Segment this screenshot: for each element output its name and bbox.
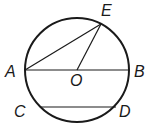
label-a: A bbox=[4, 63, 16, 80]
circle-diagram: A B E O C D bbox=[0, 0, 152, 132]
label-d: D bbox=[119, 103, 131, 120]
label-c: C bbox=[14, 103, 26, 120]
label-o: O bbox=[70, 72, 82, 89]
label-e: E bbox=[101, 2, 112, 19]
label-b: B bbox=[134, 63, 145, 80]
